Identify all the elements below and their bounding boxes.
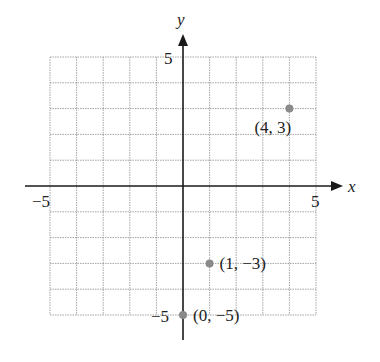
- data-point-marker: [206, 259, 214, 267]
- data-point-label: (4, 3): [254, 118, 291, 137]
- x-axis-arrow-icon: [331, 181, 343, 191]
- x-max-tick-label: 5: [311, 192, 320, 211]
- y-axis-arrow-icon: [178, 34, 188, 46]
- data-point-marker: [285, 105, 293, 113]
- data-point-label: (1, −3): [220, 254, 266, 273]
- y-min-tick-label: −5: [151, 307, 169, 326]
- data-point-label: (0, −5): [193, 306, 239, 325]
- y-max-tick-label: 5: [164, 49, 173, 68]
- y-axis-label: y: [175, 10, 185, 29]
- coordinate-plane: x y −5 5 5 −5 (4, 3)(1, −3)(0, −5): [0, 0, 380, 362]
- x-min-tick-label: −5: [32, 192, 50, 211]
- x-axis-label: x: [347, 177, 356, 196]
- data-point-marker: [179, 311, 187, 319]
- axes: [25, 34, 343, 340]
